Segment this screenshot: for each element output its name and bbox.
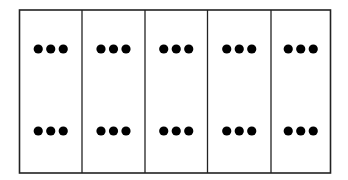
dot [34, 44, 43, 53]
dot [34, 126, 43, 135]
dot [121, 44, 130, 53]
dot-group-bottom [159, 126, 193, 135]
dot [309, 44, 318, 53]
dot [184, 44, 193, 53]
dot [109, 44, 118, 53]
dot-group-top [284, 44, 318, 53]
outer-frame [20, 10, 331, 173]
dot [159, 44, 168, 53]
dot [235, 44, 244, 53]
dot-group-bottom [284, 126, 318, 135]
dot-group-top [159, 44, 193, 53]
dot [296, 126, 305, 135]
dot [59, 126, 68, 135]
dot [309, 126, 318, 135]
dot [284, 44, 293, 53]
grouping-diagram [0, 0, 348, 180]
dot [222, 44, 231, 53]
dot [222, 126, 231, 135]
dot [172, 44, 181, 53]
dot [247, 44, 256, 53]
dot [172, 126, 181, 135]
dot [46, 126, 55, 135]
dot-group-bottom [222, 126, 256, 135]
dot [184, 126, 193, 135]
dot [121, 126, 130, 135]
dot [96, 44, 105, 53]
dot [247, 126, 256, 135]
dot-group-top [96, 44, 130, 53]
dot [96, 126, 105, 135]
dot-group-top [222, 44, 256, 53]
dot-group-bottom [96, 126, 130, 135]
dot [235, 126, 244, 135]
dot [284, 126, 293, 135]
dot [46, 44, 55, 53]
dot [296, 44, 305, 53]
dot [159, 126, 168, 135]
dot-group-bottom [34, 126, 68, 135]
dot-group-top [34, 44, 68, 53]
dot [59, 44, 68, 53]
dot [109, 126, 118, 135]
